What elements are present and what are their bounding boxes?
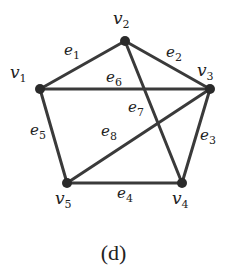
edge-label-e5: e5	[30, 121, 46, 142]
graph-diagram: e1e2e3e4e5e6e7e8v1v2v3v4v5	[0, 0, 227, 280]
edge-label-e2: e2	[166, 43, 182, 64]
vertex-v3	[205, 84, 215, 94]
vertex-v5	[62, 178, 72, 188]
vertex-label-v5: v5	[55, 188, 72, 211]
vertex-label-v4: v4	[172, 188, 189, 211]
edge-label-e6: e6	[106, 68, 122, 89]
edge-label-e8: e8	[101, 122, 117, 143]
vertex-v2	[120, 36, 130, 46]
edges-group	[40, 41, 210, 183]
vertex-label-v3: v3	[197, 60, 214, 83]
vertex-label-v2: v2	[113, 8, 130, 31]
edge-label-e3: e3	[200, 126, 216, 147]
edge-label-e1: e1	[64, 41, 80, 62]
figure-caption: (d)	[0, 240, 227, 266]
vertex-v1	[35, 84, 45, 94]
vertex-v4	[177, 178, 187, 188]
edge-e8	[67, 89, 210, 183]
vertex-label-v1: v1	[10, 62, 27, 85]
edge-label-e4: e4	[117, 184, 133, 205]
edge-label-e7: e7	[128, 98, 144, 119]
